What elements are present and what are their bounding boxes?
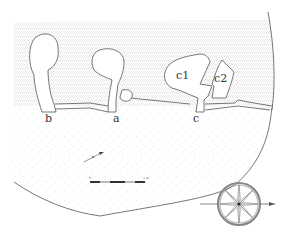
site-plan: b a c c1 c2 0 1 m <box>0 0 294 238</box>
label-a: a <box>113 112 120 125</box>
scale-start-label: 0 <box>89 176 91 180</box>
chamber-a-lobe <box>120 90 132 102</box>
label-c2: c2 <box>214 72 227 85</box>
label-c1: c1 <box>176 69 189 82</box>
label-c: c <box>193 112 199 125</box>
north-arrow-icon <box>269 202 275 206</box>
scale-end-label: 1 m <box>143 176 149 180</box>
label-b: b <box>45 112 52 125</box>
